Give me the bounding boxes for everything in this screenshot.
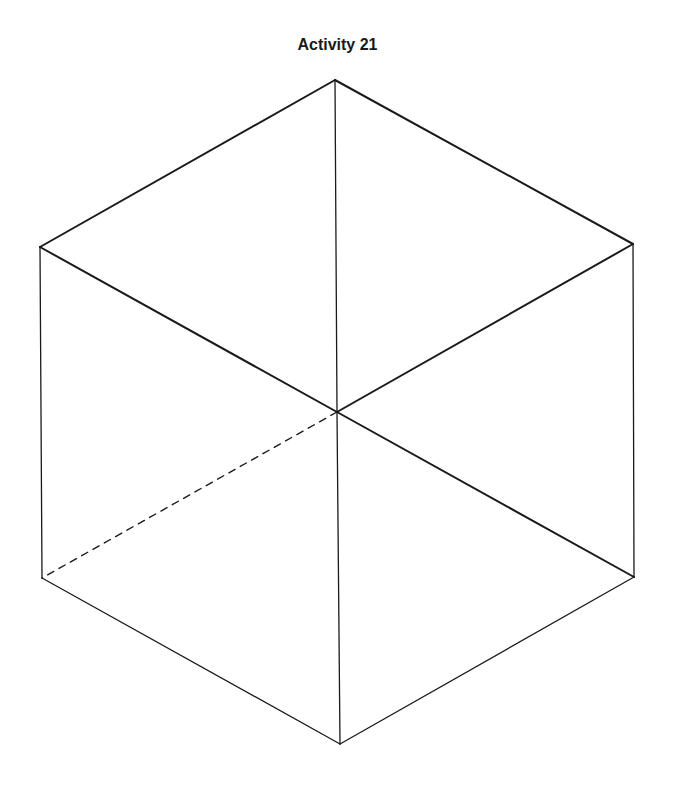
cube-edge	[337, 412, 634, 577]
cube-edge	[40, 80, 335, 247]
cube-edge	[42, 578, 340, 744]
cube-edge	[337, 244, 633, 412]
cube-edges	[40, 80, 634, 744]
cube-diagram	[0, 0, 675, 789]
cube-edge	[335, 80, 337, 412]
cube-edge	[335, 80, 633, 244]
cube-edge	[337, 412, 340, 744]
cube-edge	[40, 247, 337, 412]
cube-edge	[633, 244, 634, 577]
cube-edge	[340, 577, 634, 744]
cube-edge	[40, 247, 42, 578]
hidden-edge-dashed	[42, 412, 337, 578]
